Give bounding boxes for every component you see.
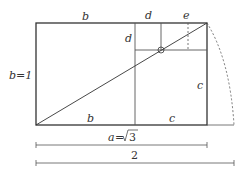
diagonal: [36, 23, 207, 125]
label-top-e: e: [183, 9, 190, 22]
label-top-b: b: [82, 10, 89, 23]
label-bottom-c: c: [169, 112, 175, 125]
golden-rectangle-diagram: b d e d b=1 c b c a = 3 2: [0, 0, 249, 176]
label-bottom-b: b: [87, 112, 94, 125]
label-inner-d: d: [125, 32, 132, 45]
label-2: 2: [131, 149, 138, 162]
dashed-arc: [207, 23, 234, 125]
label-a-val: 3: [129, 131, 136, 144]
label-right-c: c: [197, 79, 203, 92]
label-a-eq: =: [115, 131, 124, 144]
label-top-d: d: [145, 9, 152, 22]
label-left-side: b=1: [9, 69, 32, 82]
label-a-var: a: [108, 131, 115, 144]
